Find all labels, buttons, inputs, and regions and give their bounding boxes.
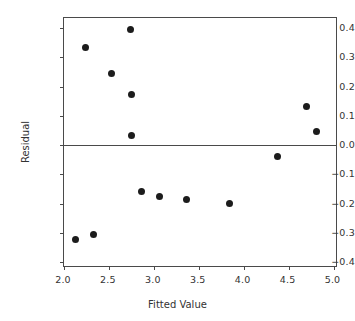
x-axis-tick: [64, 266, 65, 270]
zero-reference-line: [64, 145, 336, 146]
data-point: [183, 196, 190, 203]
x-axis-tick-label: 3.5: [190, 274, 206, 285]
y-axis-tick: [60, 28, 64, 29]
y-axis-tick-label: −0.3: [301, 226, 355, 237]
x-axis-tick-label: 2.5: [100, 274, 116, 285]
y-axis-tick: [60, 116, 64, 117]
x-axis-tick-label: 4.5: [280, 274, 296, 285]
data-point: [313, 128, 320, 135]
data-point: [274, 153, 281, 160]
y-axis-tick-label: −0.2: [301, 197, 355, 208]
y-axis-tick: [60, 233, 64, 234]
data-point: [138, 188, 145, 195]
y-axis-tick-label: 0.2: [301, 80, 355, 91]
residual-plot-figure: Residual 0.40.30.20.10.0−0.1−0.2−0.3−0.4…: [0, 0, 355, 321]
y-axis-tick-label: 0.1: [301, 109, 355, 120]
y-axis-label-container: Residual: [0, 0, 30, 285]
x-axis-tick-label: 3.0: [145, 274, 161, 285]
y-axis-tick: [60, 57, 64, 58]
y-axis-tick: [60, 145, 64, 146]
y-axis-tick: [60, 204, 64, 205]
x-axis-tick: [289, 266, 290, 270]
x-axis-tick: [199, 266, 200, 270]
data-point: [108, 70, 115, 77]
y-axis-tick: [60, 174, 64, 175]
x-axis-tick-label: 2.0: [55, 274, 71, 285]
data-point: [128, 91, 135, 98]
data-point: [90, 231, 97, 238]
data-point: [226, 200, 233, 207]
x-axis-tick: [244, 266, 245, 270]
plot-area: [63, 17, 337, 267]
data-point: [127, 26, 134, 33]
x-axis-label: Fitted Value: [0, 299, 355, 310]
data-point: [82, 44, 89, 51]
y-axis-label: Residual: [20, 121, 31, 163]
y-axis-tick-label: 0.0: [301, 139, 355, 150]
data-point: [72, 236, 79, 243]
x-axis-tick-label: 4.0: [235, 274, 251, 285]
x-axis-tick-label: 5.0: [325, 274, 341, 285]
data-point: [128, 132, 135, 139]
x-axis-tick: [154, 266, 155, 270]
y-axis-tick: [60, 87, 64, 88]
x-axis-tick: [109, 266, 110, 270]
y-axis-tick-label: −0.4: [301, 256, 355, 267]
y-axis-tick: [60, 262, 64, 263]
y-axis-tick-label: −0.1: [301, 168, 355, 179]
y-axis-tick-label: 0.3: [301, 51, 355, 62]
y-axis-tick-label: 0.4: [301, 22, 355, 33]
data-point: [156, 193, 163, 200]
